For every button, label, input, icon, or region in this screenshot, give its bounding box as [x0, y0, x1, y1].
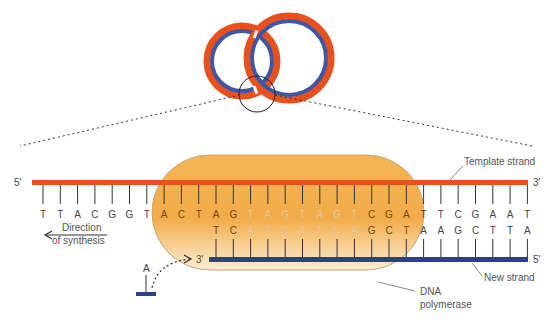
- template-base: G: [281, 209, 289, 220]
- zoom-line-left: [20, 95, 240, 146]
- new-strand-base: C: [282, 225, 289, 236]
- new-strand-base: C: [333, 225, 340, 236]
- new-strand-base: C: [230, 225, 237, 236]
- template-base: C: [178, 209, 185, 220]
- template-base: A: [489, 209, 496, 220]
- template-base: A: [213, 209, 220, 220]
- direction-label-line2: of synthesis: [52, 235, 105, 246]
- new-strand-base: T: [213, 225, 219, 236]
- template-base: A: [265, 209, 272, 220]
- template-base: G: [333, 209, 341, 220]
- new-strand-base: T: [507, 225, 513, 236]
- template-base: T: [40, 209, 46, 220]
- dna-polymerase-leader: [378, 282, 415, 291]
- new-strand-base: G: [368, 225, 376, 236]
- new-3prime-label: 3': [196, 254, 204, 265]
- new-strand-leader: [472, 263, 482, 276]
- new-strand-base: C: [472, 225, 479, 236]
- new-strand-base: A: [438, 225, 445, 236]
- template-3prime-label: 3': [533, 177, 541, 188]
- template-base: C: [91, 209, 98, 220]
- template-base: A: [507, 209, 514, 220]
- new-5prime-label: 5': [533, 254, 541, 265]
- new-strand: [209, 257, 528, 262]
- dna-replication-diagram: TTACGGTACTAGTAGTAGTCGATTCGAAT TCATCATCAG…: [0, 0, 558, 327]
- incoming-nucleotide-base: A: [143, 263, 150, 274]
- new-strand-base: G: [454, 225, 462, 236]
- dna-polymerase-label-line1: DNA: [420, 286, 441, 297]
- template-strand-label: Template strand: [464, 156, 535, 167]
- new-strand-base: C: [385, 225, 392, 236]
- template-base: G: [229, 209, 237, 220]
- template-base: A: [161, 209, 168, 220]
- template-base: A: [316, 209, 323, 220]
- template-base: A: [74, 209, 81, 220]
- new-strand-base: A: [299, 225, 306, 236]
- zoom-line-right: [275, 95, 532, 146]
- template-base: T: [524, 209, 530, 220]
- template-base: C: [368, 209, 375, 220]
- new-strand-base: T: [490, 225, 496, 236]
- template-base: A: [403, 209, 410, 220]
- plasmid-right-outer-ring: [247, 16, 331, 100]
- template-5prime-label: 5': [14, 177, 22, 188]
- template-base: T: [57, 209, 63, 220]
- direction-label-line1: Direction: [62, 222, 101, 233]
- template-strand: [32, 180, 528, 185]
- new-strand-base: A: [420, 225, 427, 236]
- new-strand-base: T: [403, 225, 409, 236]
- template-base: G: [126, 209, 134, 220]
- new-strand-base: T: [265, 225, 271, 236]
- template-base: G: [385, 209, 393, 220]
- template-base: T: [144, 209, 150, 220]
- template-base: T: [351, 209, 357, 220]
- template-base: G: [108, 209, 116, 220]
- template-base: C: [455, 209, 462, 220]
- template-strand-leader: [449, 166, 463, 181]
- template-base: T: [196, 209, 202, 220]
- template-base: T: [248, 209, 254, 220]
- dna-polymerase-label-line2: polymerase: [420, 299, 472, 310]
- template-base: G: [472, 209, 480, 220]
- template-bases: TTACGGTACTAGTAGTAGTCGATTCGAAT: [40, 209, 531, 220]
- new-strand-base: T: [317, 225, 323, 236]
- template-base: T: [421, 209, 427, 220]
- new-strand-label: New strand: [484, 272, 535, 283]
- new-strand-base: A: [247, 225, 254, 236]
- plasmid-right-inner-ring: [252, 21, 326, 95]
- new-strand-base: A: [351, 225, 358, 236]
- template-base: T: [438, 209, 444, 220]
- new-strand-base: A: [524, 225, 531, 236]
- plasmid-overview: [207, 16, 331, 112]
- template-base: T: [299, 209, 305, 220]
